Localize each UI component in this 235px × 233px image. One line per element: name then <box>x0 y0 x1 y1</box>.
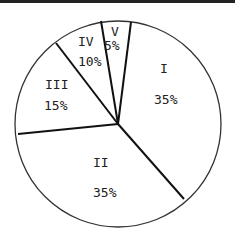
pie-chart: V 5% IV 10% III 15% I 35% II 35% <box>0 0 235 233</box>
slice-v-name: V <box>111 24 119 39</box>
slice-iv-percent: 10% <box>78 54 102 69</box>
slice-iv-name: IV <box>78 34 94 49</box>
slice-iii-name: III <box>45 77 68 92</box>
slice-iii-percent: 15% <box>44 98 68 113</box>
slice-v-percent: 5% <box>104 38 120 53</box>
slice-i-name: I <box>160 61 168 76</box>
slice-ii-percent: 35% <box>93 185 117 200</box>
slice-ii-name: II <box>93 155 109 170</box>
slice-i-percent: 35% <box>154 92 178 107</box>
